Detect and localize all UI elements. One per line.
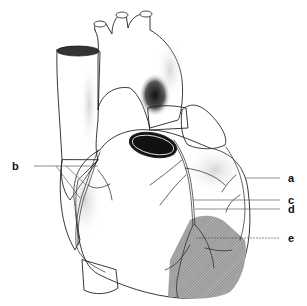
label-e: e [288, 232, 294, 244]
label-b: b [12, 160, 19, 172]
heart-diagram: a b c d e [0, 0, 307, 306]
aortic-arch [94, 11, 184, 128]
shaded-region-e [168, 216, 246, 299]
label-d: d [288, 203, 295, 215]
label-a: a [288, 172, 295, 184]
inferior-vena-cava [82, 260, 118, 294]
